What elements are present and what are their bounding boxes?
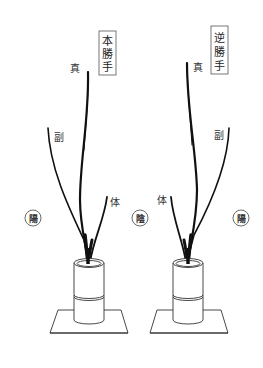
left-stems [48, 72, 107, 264]
left-title-char-3: 手 [102, 60, 113, 74]
right-stems [171, 63, 229, 264]
left-vase [50, 259, 128, 334]
left-label-soe: 副 [54, 132, 64, 143]
svg-text:陰: 陰 [136, 213, 146, 224]
left-label-shin: 真 [70, 62, 80, 74]
left-yang-circle: 陽 [25, 210, 41, 226]
right-title-char-3: 手 [214, 59, 225, 73]
right-vase [150, 259, 228, 334]
right-title-box: 逆 勝 手 [211, 26, 228, 74]
right-label-tai: 体 [157, 195, 167, 206]
right-label-soe: 副 [214, 130, 224, 141]
right-yang-circle: 陽 [233, 210, 249, 226]
svg-text:陽: 陽 [29, 214, 38, 224]
right-label-shin: 真 [193, 61, 203, 73]
left-title-char-2: 勝 [102, 47, 113, 61]
right-yin-circle: 陰 [132, 210, 148, 226]
right-arrangement: 逆 勝 手 真 副 体 陰 陽 [132, 26, 249, 333]
ikebana-diagram: 本 勝 手 真 副 体 陽 [0, 0, 263, 368]
left-title-char-1: 本 [102, 34, 113, 48]
left-label-tai: 体 [110, 197, 120, 208]
left-title-box: 本 勝 手 [99, 31, 116, 75]
svg-text:陽: 陽 [237, 214, 246, 224]
right-title-char-2: 勝 [214, 45, 225, 59]
right-title-char-1: 逆 [214, 31, 225, 45]
left-arrangement: 本 勝 手 真 副 体 陽 [25, 31, 128, 333]
